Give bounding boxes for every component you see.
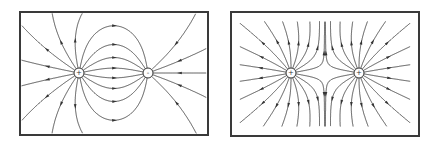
arrow-icon [341,42,344,47]
field-line [22,76,75,121]
arrow-icon [371,39,375,44]
field-line [152,14,196,70]
arrow-icon [325,92,328,97]
arrow-icon [386,56,391,59]
arrow-icon [45,78,50,81]
field-line [363,47,410,71]
field-line [362,77,410,123]
field-line [240,23,288,69]
charge-sign-label: + [356,69,362,77]
arrow-icon [276,39,280,44]
arrow-icon [112,67,117,70]
field-line [80,26,147,69]
arrow-icon [74,38,77,43]
arrow-icon [332,45,335,50]
field-line [363,76,410,100]
arrow-icon [259,87,264,90]
arrow-icon [288,40,291,45]
arrow-icon [307,100,310,105]
arrow-icon [307,42,310,47]
arrow-icon [112,56,117,59]
arrow-icon [316,45,319,50]
arrow-icon [112,24,117,27]
like-charges-field-lines [240,21,410,126]
field-line [52,13,76,68]
field-line [263,78,289,127]
arrow-icon [288,103,291,108]
arrow-icon [60,101,63,106]
arrow-icon [177,72,182,75]
arrow-icon [112,87,117,90]
field-line [240,47,287,71]
arrow-icon [112,77,117,80]
arrow-icon [177,59,182,62]
arrow-icon [275,103,279,108]
charge-sign-label: + [76,69,82,77]
arrow-icon [112,43,117,46]
arrow-icon [259,56,264,59]
field-line [240,76,287,100]
field-line [152,76,197,133]
arrow-icon [45,66,50,69]
arrow-icon [331,96,334,101]
field-line [240,77,288,123]
arrow-icon [177,84,182,87]
arrow-icon [112,100,117,103]
field-line [361,21,386,68]
field-line [362,23,410,69]
field-line [52,77,76,133]
arrow-icon [112,119,117,122]
arrow-icon [297,102,300,107]
charge-sign-label: + [288,69,294,77]
field-line [361,78,387,127]
arrow-icon [360,40,363,45]
arrow-icon [386,87,391,90]
arrow-icon [360,103,363,108]
arrow-icon [371,103,375,108]
field-line [80,77,147,120]
field-lines-diagram: +-++ [0,0,438,148]
arrow-icon [341,100,344,105]
arrow-icon [316,96,319,101]
field-line [265,21,290,68]
charges: +-++ [74,68,364,78]
arrow-icon [350,102,353,107]
field-line [22,26,75,70]
arrow-icon [60,40,63,45]
dipole-field-lines [22,13,207,133]
field-line [75,13,82,68]
